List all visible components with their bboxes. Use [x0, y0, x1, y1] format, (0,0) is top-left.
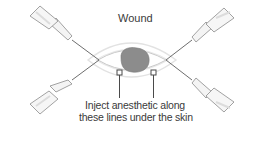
wound-anesthesia-diagram: Wound Inject anesthetic along these line…	[0, 0, 262, 151]
wound-label: Wound	[118, 12, 153, 24]
wound-icon	[121, 47, 149, 72]
caption-line-1: Inject anesthetic along	[79, 99, 191, 111]
caption-line-2: these lines under the skin	[79, 111, 191, 123]
syringe-top-left-icon	[30, 6, 99, 60]
caption-text: Inject anesthetic along these lines unde…	[79, 99, 191, 123]
callout-marker-right-icon	[151, 70, 156, 98]
syringe-top-right-icon	[166, 8, 234, 60]
callout-marker-left-icon	[117, 70, 122, 98]
